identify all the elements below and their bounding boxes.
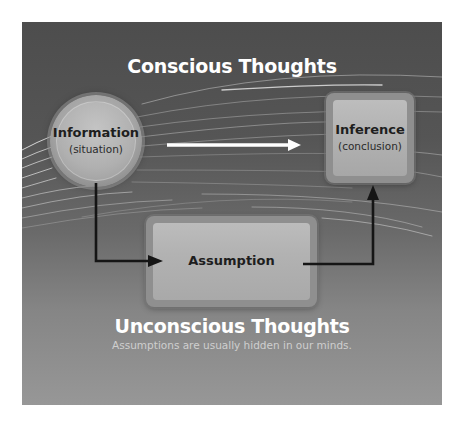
assumption-to-inference-arrow — [303, 185, 379, 264]
unconscious-thoughts-heading: Unconscious Thoughts — [22, 315, 442, 337]
diagram-panel: Conscious Thoughts Information (situatio… — [22, 22, 442, 405]
assumptions-caption: Assumptions are usually hidden in our mi… — [22, 339, 442, 351]
information-to-assumption-arrow — [96, 183, 163, 267]
information-to-inference-arrow — [167, 139, 301, 151]
